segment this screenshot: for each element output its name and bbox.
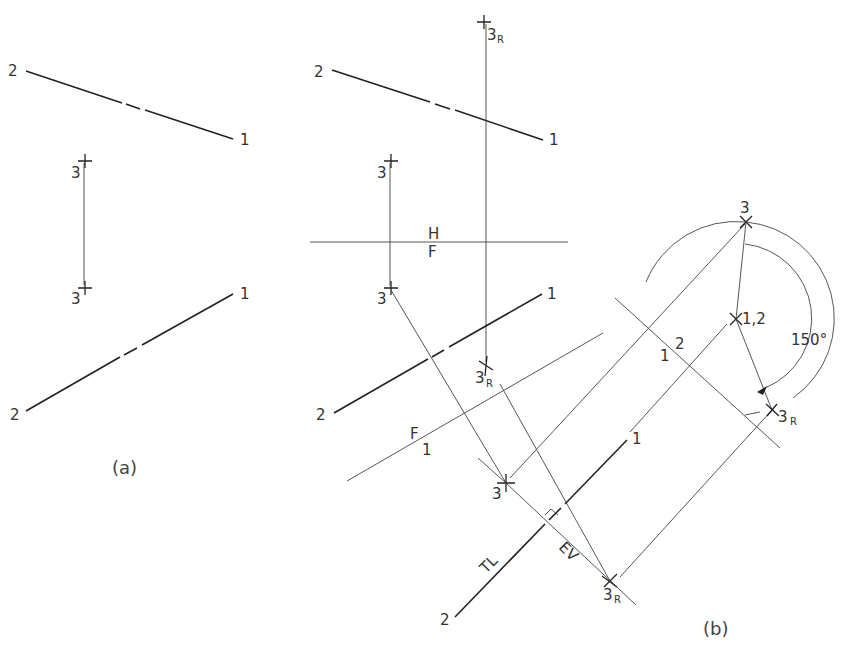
svg-text:3: 3 [487,26,497,44]
svg-text:3: 3 [492,485,502,503]
svg-text:EV: EV [555,538,582,565]
svg-text:2: 2 [314,63,324,81]
tl-line [455,524,545,617]
svg-text:2: 2 [316,406,326,424]
svg-text:1: 1 [549,131,559,149]
svg-text:R: R [790,416,797,427]
svg-text:2: 2 [10,406,20,424]
svg-text:1: 1 [547,285,557,303]
svg-text:3: 3 [377,290,387,308]
label-2: 2 [8,62,18,80]
label-1: 1 [240,131,250,149]
svg-text:1: 1 [660,347,670,365]
descriptive-geometry-figure: 2 1 3 3 2 1 (a) 2 1 3 R 3 H F [0,0,842,647]
svg-text:3: 3 [475,369,485,387]
svg-text:R: R [486,378,493,389]
svg-text:3: 3 [71,164,81,182]
svg-text:R: R [614,594,621,605]
svg-text:1: 1 [240,285,250,303]
line-12-top-a [26,71,122,103]
angle-label: 150° [791,331,827,349]
svg-text:3: 3 [740,199,750,217]
svg-text:F: F [428,243,437,261]
projector-3R [500,384,610,581]
svg-text:3: 3 [778,408,788,426]
svg-text:1: 1 [632,430,642,448]
caption-b: (b) [703,618,728,639]
svg-text:1,2: 1,2 [742,310,766,328]
caption-a: (a) [112,457,137,478]
line-12-front-a [26,357,120,411]
svg-text:H: H [428,225,439,243]
fold-line-F1 [347,333,603,481]
svg-text:3: 3 [603,586,613,604]
line-12-top-b [332,70,430,102]
svg-text:1: 1 [422,441,432,459]
svg-text:2: 2 [675,335,685,353]
svg-text:2: 2 [440,611,450,629]
figure-a: 2 1 3 3 2 1 (a) [8,62,250,478]
line-12-front-b [334,359,428,413]
svg-text:F: F [410,425,419,443]
svg-text:R: R [497,34,504,45]
svg-text:3: 3 [377,164,387,182]
svg-text:3: 3 [71,290,81,308]
rotation-arc [646,221,834,398]
figure-b: 2 1 3 R 3 H F 3 2 1 3 R F 1 [310,15,834,639]
